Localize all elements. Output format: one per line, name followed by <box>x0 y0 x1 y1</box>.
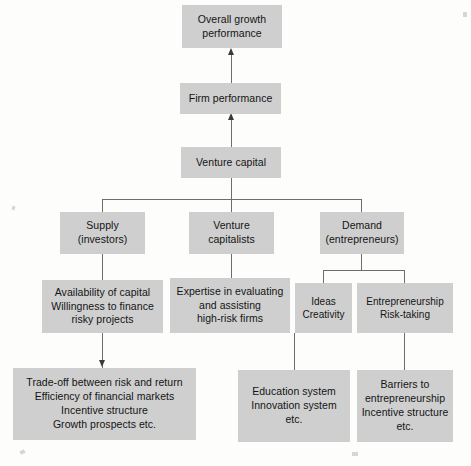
paper-speck <box>352 452 358 456</box>
node-firm-performance[interactable]: Firm performance <box>180 83 281 114</box>
node-availability-of-capital[interactable]: Availability of capital Willingness to f… <box>42 280 163 333</box>
node-supply-investors[interactable]: Supply (investors) <box>60 212 145 254</box>
connector-bus-to-supply <box>102 199 103 212</box>
node-venture-capital[interactable]: Venture capital <box>181 147 281 178</box>
paper-speck <box>463 12 467 17</box>
node-expertise-in-evaluating[interactable]: Expertise in evaluating and assisting hi… <box>170 278 290 333</box>
connector-bus-level3 <box>323 270 405 271</box>
connector-bus-to-venture-capitalists <box>231 199 232 212</box>
connector-demand-stem <box>361 253 362 271</box>
connector-vcs-to-expertise <box>231 253 232 278</box>
connector-bus-to-entrepreneurship <box>404 270 405 283</box>
connector-bus-to-demand <box>361 199 362 212</box>
connector-supply-to-availability <box>102 253 103 280</box>
node-barriers-to-entrepreneurship[interactable]: Barriers to entrepreneurship Incentive s… <box>357 370 453 442</box>
node-education-innovation-system[interactable]: Education system Innovation system etc. <box>238 370 350 442</box>
node-entrepreneurship-risk-taking[interactable]: Entrepreneurship Risk-taking <box>357 283 453 333</box>
connector-bus-to-ideas <box>323 270 324 283</box>
connector-ideas-to-education <box>294 333 295 370</box>
connector-vc-to-firm <box>231 120 232 147</box>
connector-firm-to-overall <box>231 55 232 83</box>
node-demand-entrepreneurs[interactable]: Demand (entrepreneurs) <box>320 212 404 254</box>
node-overall-growth-performance[interactable]: Overall growth performance <box>182 5 282 48</box>
arrowhead-tradeoff <box>99 360 105 367</box>
node-ideas-creativity[interactable]: Ideas Creativity <box>295 283 352 333</box>
node-venture-capitalists[interactable]: Venture capitalists <box>189 212 274 254</box>
arrowhead-firm-performance <box>228 113 234 120</box>
paper-speck <box>11 206 15 211</box>
node-trade-off-risk-return[interactable]: Trade-off between risk and return Effici… <box>13 368 196 440</box>
arrowhead-overall-growth <box>228 48 234 55</box>
connector-entrepreneurship-to-barriers <box>404 333 405 370</box>
paper-speck <box>19 449 25 455</box>
connector-vc-stem <box>231 177 232 200</box>
diagram-canvas: Overall growth performance Firm performa… <box>0 0 471 466</box>
